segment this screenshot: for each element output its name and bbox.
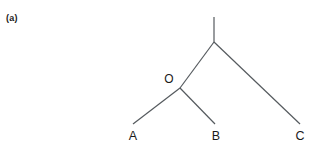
- leaf-label-B: B: [212, 129, 220, 143]
- leaf-label-A: A: [129, 129, 138, 143]
- tree-branches: [133, 17, 300, 124]
- figure-panel: (a) O A B C: [0, 0, 320, 152]
- branch-root-to-O: [180, 42, 214, 88]
- phylogenetic-tree-diagram: O A B C: [0, 0, 320, 152]
- node-label-O: O: [164, 72, 173, 86]
- branch-O-to-B: [180, 88, 215, 124]
- branch-root-to-C: [214, 42, 300, 124]
- branch-O-to-A: [133, 88, 180, 124]
- leaf-label-C: C: [295, 129, 304, 143]
